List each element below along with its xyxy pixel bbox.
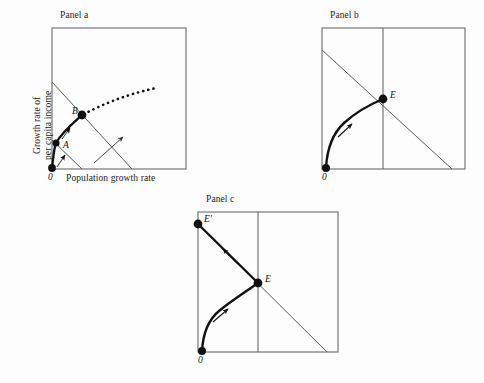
figure-canvas: Panel a Growth rate of per capita income… [0, 0, 484, 383]
panel-a-arrow-origin-to-A [57, 155, 65, 167]
panel-b-origin-label: 0 [322, 172, 327, 182]
panel-c-growth-curve [202, 283, 258, 351]
panel-a-ylabel-line1: Growth rate of [32, 97, 42, 154]
panel-c-label-E-prime: E′ [204, 214, 212, 224]
panel-a-label-A: A [63, 140, 69, 150]
panel-b-point-origin [322, 164, 330, 172]
panel-c-title: Panel c [206, 194, 234, 204]
panel-a-xlabel: Population growth rate [66, 173, 155, 183]
panel-c-label-E: E [265, 274, 271, 284]
panel-a-arrow-shift-indicator [94, 137, 123, 163]
panel-b-group [322, 28, 465, 172]
panel-a-title: Panel a [60, 10, 88, 20]
panel-c-point-origin [198, 347, 206, 355]
panel-a-origin-label: 0 [48, 172, 53, 182]
panel-b-point-E [379, 95, 388, 104]
panel-b-title: Panel b [330, 10, 359, 20]
panel-a-group [48, 28, 186, 172]
panel-c-origin-label: 0 [198, 355, 203, 365]
panel-b-label-E: E [390, 90, 396, 100]
panel-a-label-B: B [72, 106, 78, 116]
panel-a-point-A [52, 139, 59, 146]
panel-a-ylabel-line2: per capita income [43, 91, 53, 160]
panel-b-downward-sloping-line [322, 50, 452, 169]
panel-c-arrow-E-to-Eprime [223, 249, 238, 264]
panel-c-point-E [254, 279, 263, 288]
panel-b-growth-curve [326, 99, 383, 168]
panel-a-dotted-extension [84, 88, 156, 114]
panel-a-point-origin [48, 164, 56, 172]
diagram-svg [0, 0, 484, 383]
panel-a-point-B [78, 111, 87, 120]
panel-c-point-Eprime [194, 220, 203, 229]
